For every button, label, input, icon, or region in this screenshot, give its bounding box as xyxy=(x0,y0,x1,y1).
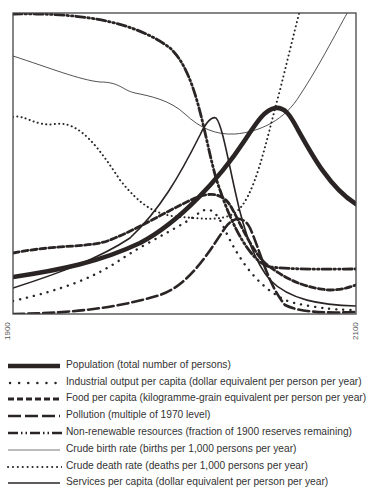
legend-item-services-per-capita: Services per capita (dollar equivalent p… xyxy=(0,475,372,491)
legend-label: Pollution (multiple of 1970 level) xyxy=(66,409,210,420)
legend-item-population: Population (total number of persons) xyxy=(0,358,372,374)
legend-swatch-sparse-dotted xyxy=(6,377,62,389)
legend-swatch-dash-dot-dot xyxy=(6,427,62,439)
legend-item-nonrenewable-resources: Non-renewable resources (fraction of 190… xyxy=(0,425,372,441)
legend-label: Crude death rate (deaths per 1,000 perso… xyxy=(66,460,308,471)
legend-item-pollution: Pollution (multiple of 1970 level) xyxy=(0,408,372,424)
legend-swatch-long-dashed xyxy=(6,410,62,422)
series-crude-death-rate xyxy=(13,10,300,219)
legend-swatch-dense-dotted xyxy=(6,461,62,473)
chart-plot xyxy=(0,0,372,345)
legend-label: Non-renewable resources (fraction of 190… xyxy=(66,426,352,437)
x-axis-start-label: 1900 xyxy=(3,322,12,340)
series-industrial-output-per-capita xyxy=(13,210,356,310)
chart-area: 1900 2100 xyxy=(0,0,372,345)
legend-label: Industrial output per capita (dollar equ… xyxy=(66,376,362,387)
legend-item-food-per-capita: Food per capita (kilogramme-grain equiva… xyxy=(0,391,372,407)
legend-label: Population (total number of persons) xyxy=(66,359,231,370)
legend-swatch-short-dashed xyxy=(6,393,62,405)
legend-label: Services per capita (dollar equivalent p… xyxy=(66,476,328,487)
series-population xyxy=(13,108,356,277)
legend-label: Crude birth rate (births per 1,000 perso… xyxy=(66,443,296,454)
series-crude-birth-rate xyxy=(13,10,349,134)
legend-label: Food per capita (kilogramme-grain equiva… xyxy=(66,392,366,403)
legend-item-crude-death-rate: Crude death rate (deaths per 1,000 perso… xyxy=(0,459,372,475)
legend-item-industrial-output: Industrial output per capita (dollar equ… xyxy=(0,375,372,391)
legend-swatch-medium-solid xyxy=(6,477,62,489)
legend-swatch-thin-solid xyxy=(6,444,62,456)
legend-item-crude-birth-rate: Crude birth rate (births per 1,000 perso… xyxy=(0,442,372,458)
x-axis-end-label: 2100 xyxy=(351,322,360,340)
legend-swatch-thick-solid xyxy=(6,360,62,372)
